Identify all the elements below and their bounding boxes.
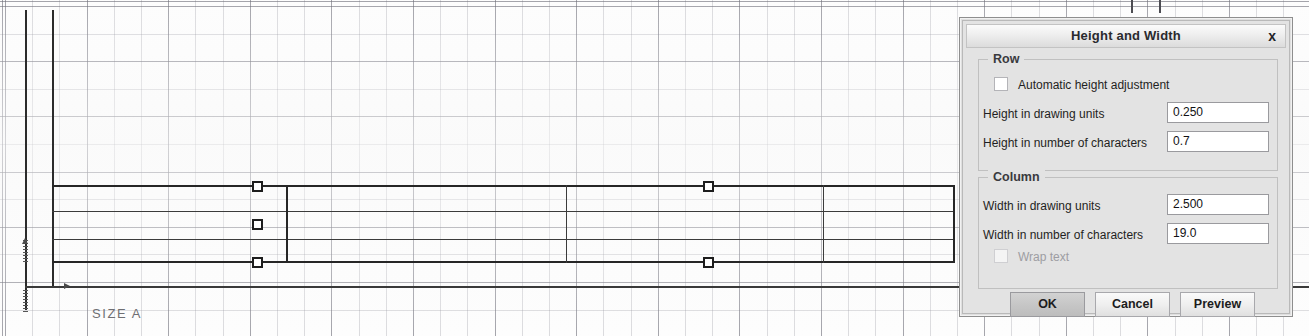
automatic-height-adjustment-checkbox[interactable] bbox=[994, 77, 1008, 91]
row-grip-top[interactable] bbox=[252, 181, 263, 192]
ok-button[interactable]: OK bbox=[1010, 292, 1085, 317]
width-in-number-of-characters-input[interactable]: 19.0 bbox=[1167, 223, 1269, 244]
axis-arrow-up-icon bbox=[22, 238, 28, 244]
table-row-line-2 bbox=[52, 211, 955, 212]
sheet-size-label: SIZE A bbox=[92, 306, 142, 321]
preview-button[interactable]: Preview bbox=[1180, 292, 1255, 317]
wrap-text-label: Wrap text bbox=[1018, 249, 1069, 265]
column-groupbox-label: Column bbox=[988, 170, 1045, 184]
height-in-number-of-characters-input[interactable]: 0.7 bbox=[1167, 131, 1269, 152]
table-row-line-3 bbox=[52, 239, 955, 240]
table-column-divider-3 bbox=[823, 185, 824, 263]
row-grip-middle[interactable] bbox=[252, 219, 263, 230]
height-and-width-dialog[interactable]: Height and Width x Row Automatic height … bbox=[959, 17, 1293, 317]
axis-tick-stack-lower bbox=[23, 290, 28, 314]
column-grip-top[interactable] bbox=[703, 181, 714, 192]
automatic-height-adjustment-label: Automatic height adjustment bbox=[1018, 77, 1169, 93]
height-in-drawing-units-input[interactable]: 0.250 bbox=[1167, 102, 1269, 123]
table-column-divider-1 bbox=[286, 185, 288, 263]
height-in-drawing-units-label: Height in drawing units bbox=[983, 106, 1104, 122]
table-right-edge bbox=[953, 185, 955, 263]
wrap-text-checkbox[interactable] bbox=[994, 249, 1008, 263]
row-groupbox-label: Row bbox=[988, 52, 1024, 66]
dialog-inner-frame: Height and Width x Row Automatic height … bbox=[962, 20, 1290, 314]
width-in-number-of-characters-label: Width in number of characters bbox=[983, 227, 1143, 243]
screen: SIZE A Height and Width x Row Automatic … bbox=[0, 0, 1309, 336]
close-icon[interactable]: x bbox=[1268, 28, 1276, 44]
table-column-divider-2 bbox=[566, 185, 567, 263]
table-row-line-1 bbox=[52, 185, 955, 187]
cancel-button[interactable]: Cancel bbox=[1095, 292, 1170, 317]
sheet-border-inner bbox=[52, 10, 54, 286]
width-in-drawing-units-label: Width in drawing units bbox=[983, 198, 1100, 214]
dialog-titlebar[interactable]: Height and Width x bbox=[966, 24, 1286, 48]
sheet-border-outer bbox=[25, 10, 27, 310]
ruler-tick-right bbox=[1159, 0, 1161, 13]
dialog-title: Height and Width bbox=[967, 28, 1285, 43]
table-row-line-4 bbox=[52, 261, 955, 263]
width-in-drawing-units-input[interactable]: 2.500 bbox=[1167, 194, 1269, 215]
column-grip-bottom[interactable] bbox=[703, 257, 714, 268]
row-grip-bottom[interactable] bbox=[252, 257, 263, 268]
ruler-tick-left bbox=[1131, 0, 1133, 13]
axis-arrow-right-icon bbox=[64, 283, 70, 289]
height-in-number-of-characters-label: Height in number of characters bbox=[983, 135, 1147, 151]
